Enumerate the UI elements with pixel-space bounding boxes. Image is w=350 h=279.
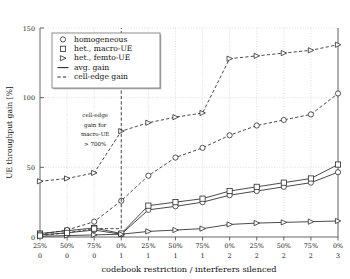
data-point-marker xyxy=(308,112,313,117)
data-point-marker xyxy=(146,203,151,208)
data-point-marker xyxy=(254,184,259,189)
y-tick-label: 0 xyxy=(31,234,35,242)
data-point-marker xyxy=(254,123,259,128)
x-tick-label-restriction: 75% xyxy=(304,242,318,250)
x-tick-label-interferers: 2 xyxy=(282,252,286,260)
data-point-marker xyxy=(173,155,178,160)
legend-label: cell-edge gain xyxy=(74,72,128,81)
x-tick-label-interferers: 1 xyxy=(146,252,150,260)
x-tick-labels: 25%050%075%00%125%150%175%10%225%250%275… xyxy=(33,237,343,260)
x-tick-label-restriction: 50% xyxy=(277,242,291,250)
data-point-marker xyxy=(281,180,286,185)
y-tick-label: 100 xyxy=(23,94,35,102)
x-tick-label-interferers: 2 xyxy=(228,252,232,260)
data-point-marker xyxy=(335,162,340,167)
x-tick-label-restriction: 25% xyxy=(141,242,155,250)
throughput-gain-line-chart: 05010015025%050%075%00%125%150%175%10%22… xyxy=(0,0,350,279)
y-tick-label: 50 xyxy=(27,164,35,172)
x-tick-label-interferers: 0 xyxy=(92,252,96,260)
chart-figure: 05010015025%050%075%00%125%150%175%10%22… xyxy=(0,0,350,279)
x-tick-label-restriction: 0% xyxy=(225,242,235,250)
x-tick-label-interferers: 1 xyxy=(201,252,205,260)
data-point-marker xyxy=(335,170,340,175)
legend-label: homogeneous xyxy=(74,35,127,44)
x-tick-label-interferers: 1 xyxy=(119,252,123,260)
x-tick-label-interferers: 0 xyxy=(65,252,69,260)
annotation-line: gain for xyxy=(84,122,107,129)
data-point-marker xyxy=(92,219,97,224)
x-tick-label-interferers: 0 xyxy=(38,252,42,260)
data-point-marker xyxy=(64,230,69,235)
data-point-marker xyxy=(227,188,232,193)
x-tick-label-restriction: 50% xyxy=(60,242,74,250)
x-tick-label-restriction: 25% xyxy=(33,242,47,250)
data-point-marker xyxy=(200,145,205,150)
x-tick-label-interferers: 2 xyxy=(255,252,259,260)
legend-marker-circle xyxy=(60,37,65,42)
legend: homogeneoushet., macro-UEhet., femto-UEa… xyxy=(52,33,161,89)
legend-label: avg. gain xyxy=(74,63,109,72)
legend-label: het., macro-UE xyxy=(74,44,132,53)
x-tick-label-restriction: 50% xyxy=(168,242,182,250)
x-tick-label-restriction: 0% xyxy=(116,242,126,250)
x-tick-label-interferers: 3 xyxy=(336,252,340,260)
data-point-marker xyxy=(335,91,340,96)
x-tick-label-restriction: 0% xyxy=(333,242,343,250)
data-point-marker xyxy=(173,200,178,205)
data-point-marker xyxy=(37,233,42,238)
legend-label: het., femto-UE xyxy=(74,53,130,62)
data-point-marker xyxy=(227,133,232,138)
data-point-marker xyxy=(92,226,97,231)
y-axis-title: UE throughput gain [%] xyxy=(5,86,14,179)
data-point-marker xyxy=(200,196,205,201)
annotation-line: macro-UE xyxy=(81,131,110,137)
x-tick-label-restriction: 25% xyxy=(250,242,264,250)
x-tick-label-restriction: 75% xyxy=(87,242,101,250)
x-tick-label-interferers: 2 xyxy=(309,252,313,260)
x-axis-title: codebook restriction / interferers silen… xyxy=(101,264,276,274)
data-point-marker xyxy=(308,176,313,181)
annotation-line: cell-edge xyxy=(82,112,108,119)
x-tick-label-interferers: 1 xyxy=(173,252,177,260)
data-point-marker xyxy=(146,173,151,178)
legend-marker-square xyxy=(60,46,65,51)
y-tick-label: 150 xyxy=(23,25,35,33)
x-tick-label-restriction: 75% xyxy=(195,242,209,250)
data-point-marker xyxy=(281,117,286,122)
annotation-line: > 700% xyxy=(84,141,106,147)
